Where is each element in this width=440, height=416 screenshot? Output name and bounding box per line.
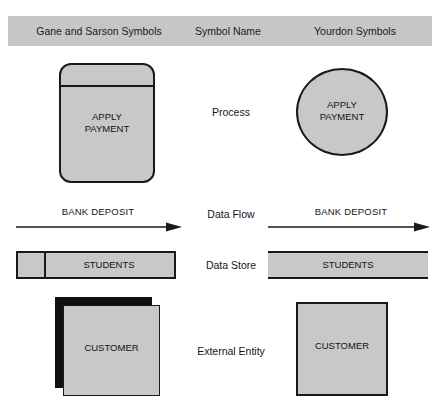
yourdon-external-entity-symbol: CUSTOMER xyxy=(296,302,388,396)
yourdon-process-label: APPLY PAYMENT xyxy=(298,99,386,123)
yourdon-data-store-symbol: STUDENTS xyxy=(268,251,428,279)
row-label-data-flow: Data Flow xyxy=(176,208,286,220)
gane-sarson-data-flow-arrow-icon xyxy=(16,221,182,233)
yourdon-external-entity-label: CUSTOMER xyxy=(298,340,386,351)
header-column-gane-sarson: Gane and Sarson Symbols xyxy=(18,16,180,46)
gane-sarson-data-store-label: STUDENTS xyxy=(44,253,174,277)
header-column-symbol-name: Symbol Name xyxy=(180,16,276,46)
yourdon-data-flow-arrow-icon xyxy=(268,221,430,233)
yourdon-process-symbol: APPLY PAYMENT xyxy=(296,68,388,156)
gane-sarson-data-flow-label: BANK DEPOSIT xyxy=(18,206,178,217)
external-entity-face: CUSTOMER xyxy=(63,305,160,396)
gane-sarson-external-entity-label: CUSTOMER xyxy=(64,342,159,353)
yourdon-data-store-label: STUDENTS xyxy=(268,253,428,277)
gane-sarson-process-symbol: APPLY PAYMENT xyxy=(59,63,155,183)
gane-sarson-external-entity-symbol: CUSTOMER xyxy=(55,297,160,396)
gane-sarson-process-label: APPLY PAYMENT xyxy=(61,111,153,135)
bottom-caption xyxy=(0,409,440,416)
dfd-symbol-comparison-diagram: Gane and Sarson Symbols Symbol Name Your… xyxy=(0,0,440,416)
gane-sarson-data-store-symbol: STUDENTS xyxy=(16,251,176,279)
process-top-band-divider xyxy=(61,85,153,87)
yourdon-data-flow-label: BANK DEPOSIT xyxy=(272,206,430,217)
row-label-process: Process xyxy=(176,106,286,118)
row-label-external-entity: External Entity xyxy=(176,345,286,357)
header-column-yourdon: Yourdon Symbols xyxy=(280,16,430,46)
